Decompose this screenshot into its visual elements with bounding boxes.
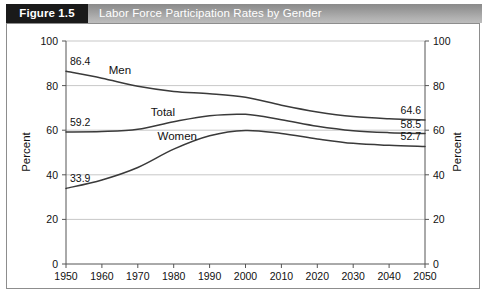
x-tick-label: 1990	[198, 270, 222, 282]
x-tick-label: 2010	[270, 270, 294, 282]
x-tick-label: 2050	[413, 270, 437, 282]
y-tick-label-left: 60	[46, 124, 58, 136]
x-tick-label: 2040	[377, 270, 401, 282]
y-tick-label-right: 20	[433, 213, 445, 225]
y-axis-right-title: Percent	[451, 131, 463, 171]
series-label-total: Total	[151, 106, 175, 118]
y-tick-label-right: 40	[433, 169, 445, 181]
y-tick-label-left: 80	[46, 80, 58, 92]
value-label-end-women: 52.7	[401, 130, 422, 142]
y-axis-left-title: Percent	[20, 131, 32, 171]
x-tick-label: 2000	[234, 270, 258, 282]
x-tick-label: 2030	[342, 270, 366, 282]
y-tick-label-left: 0	[52, 258, 58, 270]
x-tick-label: 1980	[162, 270, 186, 282]
y-tick-label-right: 80	[433, 80, 445, 92]
value-label-start-men: 86.4	[70, 55, 91, 67]
series-label-women: Women	[158, 130, 197, 142]
value-label-start-women: 33.9	[70, 172, 91, 184]
y-tick-label-left: 100	[40, 35, 58, 47]
x-tick-label: 2020	[306, 270, 330, 282]
figure-container: Figure 1.5 Labor Force Participation Rat…	[0, 0, 488, 298]
series-line-women	[66, 130, 425, 188]
value-label-end-total: 58.5	[401, 118, 422, 130]
y-tick-label-right: 0	[433, 258, 439, 270]
y-tick-label-right: 60	[433, 124, 445, 136]
x-tick-label: 1950	[54, 270, 78, 282]
chart-svg: 020406080100 020406080100 19501960197019…	[0, 0, 488, 298]
x-axis-ticks: 1950196019701980199020002010202020302040…	[54, 264, 437, 282]
value-label-start-total: 59.2	[70, 116, 91, 128]
x-tick-label: 1970	[126, 270, 150, 282]
y-axis-right-ticks: 020406080100	[425, 35, 451, 270]
x-tick-label: 1960	[90, 270, 114, 282]
y-tick-label-right: 100	[433, 35, 451, 47]
y-tick-label-left: 40	[46, 169, 58, 181]
y-axis-left-ticks: 020406080100	[40, 35, 66, 270]
value-label-end-men: 64.6	[401, 104, 422, 116]
series-line-men	[66, 71, 425, 120]
series-label-men: Men	[109, 64, 131, 76]
y-tick-label-left: 20	[46, 213, 58, 225]
chart-plot-area: 020406080100 020406080100 19501960197019…	[0, 0, 488, 298]
